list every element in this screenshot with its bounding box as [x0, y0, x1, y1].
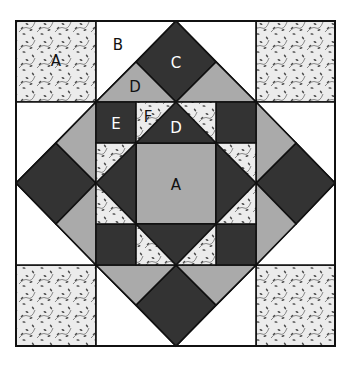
- e-square-bottom-right: [216, 224, 256, 265]
- label-c: C: [171, 54, 181, 72]
- quilt-block-diagram: A B C D E F D A: [0, 0, 349, 367]
- label-e: E: [111, 115, 120, 133]
- label-d-inner: D: [170, 119, 182, 137]
- e-square-top-right: [216, 102, 256, 143]
- corner-square-top-right: [256, 21, 335, 102]
- label-d-top: D: [129, 78, 141, 96]
- corner-square-bottom-right: [256, 265, 335, 346]
- label-corner-a: A: [51, 52, 62, 70]
- label-center-a: A: [171, 176, 182, 194]
- label-b: B: [113, 36, 123, 54]
- corner-square-bottom-left: [16, 265, 96, 346]
- e-square-bottom-left: [96, 224, 136, 265]
- label-f: F: [144, 108, 153, 126]
